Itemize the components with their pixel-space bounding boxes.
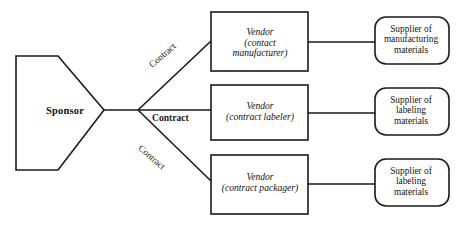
- diagram-shapes-layer: [0, 0, 462, 227]
- edge-sponsor-vendor-manufacturer[interactable]: [138, 41, 211, 110]
- supplier-box-labeling-materials-1[interactable]: [375, 88, 449, 135]
- diagram-canvas: Sponsor Contract Contract Contract Vendo…: [0, 0, 462, 227]
- supplier-box-labeling-materials-2[interactable]: [375, 159, 449, 206]
- edge-sponsor-vendor-packager[interactable]: [138, 110, 211, 181]
- vendor-box-contract-labeler[interactable]: [211, 85, 308, 140]
- vendor-box-contract-packager[interactable]: [211, 155, 308, 214]
- vendor-box-contact-manufacturer[interactable]: [211, 12, 308, 71]
- sponsor-shape[interactable]: [16, 56, 104, 170]
- supplier-box-manufacturing-materials[interactable]: [375, 17, 449, 64]
